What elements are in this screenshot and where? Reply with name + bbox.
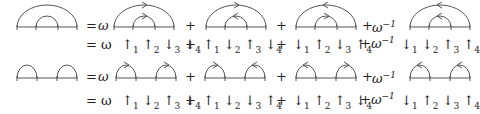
omega-coefficient: ω (98, 70, 109, 84)
term-1-arc-diagram (114, 58, 178, 84)
omega-inverse-coefficient: ω−1 (372, 68, 396, 86)
plus-sign: + (185, 19, 196, 33)
plus-sign: + (276, 93, 287, 108)
lhs-adjacent-arc-diagram (15, 58, 79, 84)
term-4-arc-diagram (408, 58, 472, 84)
plus-sign: + (185, 37, 196, 52)
plus-sign: + (185, 93, 196, 108)
equation-2-spin-expansion: = ω ↑1 ↓2 ↑3 ↓4 + ↑1 ↓2 ↓3 ↑4 + ↓1 ↑2 ↑3… (0, 90, 480, 110)
equation-2-diagram-row: = ω + + + ω−1 (0, 56, 480, 86)
spin-term-4: ↓1 ↑2 ↓3 ↑4 (401, 93, 480, 111)
equals-sign: = (86, 70, 97, 84)
plus-sign: + (276, 19, 287, 33)
plus-sign: + (276, 37, 287, 52)
equation-1-diagram-row: = ω + + + ω−1 (0, 0, 480, 32)
term-4-arc-diagram (408, 2, 472, 32)
spin-term-4: ↓1 ↓2 ↑3 ↑4 (401, 37, 480, 55)
term-2-arc-diagram (204, 2, 268, 32)
spin-term-2: ↑1 ↓2 ↓3 ↑4 (203, 93, 282, 111)
equals-sign: = (86, 19, 97, 33)
spin-term-2: ↑1 ↓2 ↑3 ↓4 (203, 37, 282, 55)
equation-1-spin-expansion: = ω ↑1 ↑2 ↓3 ↓4 + ↑1 ↓2 ↑3 ↓4 + ↓1 ↑2 ↓3… (0, 34, 480, 54)
term-3-arc-diagram (294, 58, 358, 84)
omega-coefficient: ω (98, 19, 109, 33)
lhs-nested-arc-diagram (15, 2, 79, 32)
omega-inverse-coefficient: +ω−1 (360, 35, 395, 51)
term-3-arc-diagram (294, 2, 358, 32)
expansion-lead: = ω (86, 93, 112, 108)
term-2-arc-diagram (203, 58, 267, 84)
omega-inverse-coefficient: ω−1 (372, 17, 396, 35)
omega-inverse-coefficient: +ω−1 (360, 91, 395, 107)
term-1-arc-diagram (112, 2, 176, 32)
expansion-lead: = ω (86, 37, 112, 52)
plus-sign: + (276, 70, 287, 84)
plus-sign: + (185, 70, 196, 84)
